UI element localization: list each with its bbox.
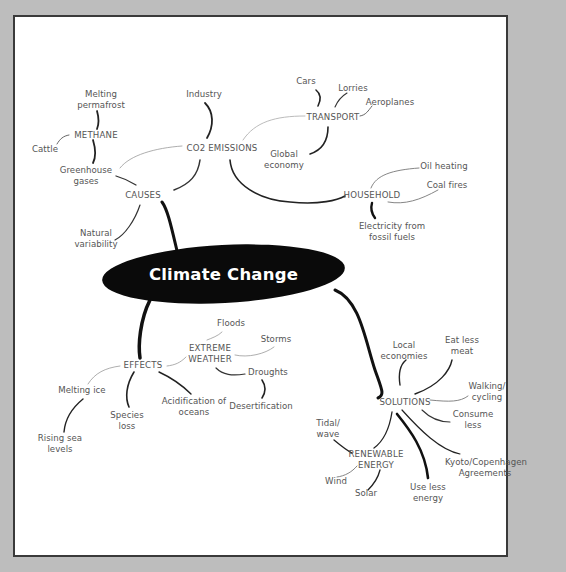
link-solutions-consume — [422, 410, 450, 422]
node-local-economies: Local economies — [379, 340, 429, 361]
link-solutions-renewable — [374, 412, 392, 448]
node-desertification: Desertification — [229, 401, 293, 412]
link-transport-aeroplanes — [360, 106, 372, 116]
node-solar: Solar — [355, 488, 377, 499]
node-cars: Cars — [296, 76, 315, 87]
node-storms: Storms — [261, 334, 292, 345]
node-use-less-energy: Use less energy — [407, 482, 449, 503]
link-meltingice-rising — [64, 399, 83, 432]
node-co2-emissions: CO2 EMISSIONS — [186, 143, 257, 154]
link-causes-greenhouse — [116, 176, 136, 185]
node-acidification-of-oceans: Acidification of oceans — [159, 396, 229, 417]
link-methane-cattle — [57, 135, 69, 144]
link-effects-meltingice — [88, 366, 120, 384]
node-cattle: Cattle — [32, 144, 58, 155]
node-droughts: Droughts — [248, 367, 288, 378]
node-methane: METHANE — [74, 130, 118, 141]
node-kyoto-copenhagen: Kyoto/Copenhagen Agreements — [445, 457, 525, 478]
link-household-oil — [371, 168, 419, 188]
node-transport: TRANSPORT — [307, 112, 360, 123]
node-industry: Industry — [186, 89, 222, 100]
link-effects-species — [127, 372, 134, 407]
node-global-economy: Global economy — [259, 149, 309, 170]
node-consume-less: Consume less — [450, 409, 496, 430]
link-greenhouse-co2 — [120, 146, 182, 168]
node-extreme-weather: EXTREME WEATHER — [185, 343, 235, 364]
link-solutions-walking — [430, 396, 468, 401]
node-aeroplanes: Aeroplanes — [366, 97, 414, 108]
node-solutions: SOLUTIONS — [379, 397, 430, 408]
link-droughts-desertification — [262, 380, 265, 398]
link-co2-industry — [205, 103, 212, 138]
link-transport-lorries — [335, 93, 347, 107]
link-solutions-meat — [415, 360, 452, 394]
node-tidal-wave: Tidal/ wave — [313, 418, 343, 439]
link-center-effects — [139, 300, 150, 358]
node-greenhouse-gases: Greenhouse gases — [56, 165, 116, 186]
link-household-electricity — [371, 203, 375, 218]
node-melting-ice: Melting ice — [58, 385, 105, 396]
node-coal-fires: Coal fires — [427, 180, 468, 191]
node-effects: EFFECTS — [124, 360, 163, 371]
central-node-title: Climate Change — [102, 245, 345, 303]
link-extreme-droughts — [216, 368, 245, 375]
node-rising-sea-levels: Rising sea levels — [35, 433, 85, 454]
link-extreme-storms — [235, 347, 274, 356]
link-effects-extreme — [167, 357, 186, 366]
node-wind: Wind — [325, 476, 347, 487]
node-renewable-energy: RENEWABLE ENERGY — [346, 449, 406, 470]
link-co2-transport — [243, 116, 305, 140]
link-transport-global-economy — [310, 127, 328, 154]
link-effects-acidification — [159, 372, 191, 394]
link-center-solutions — [335, 290, 382, 398]
node-eat-less-meat: Eat less meat — [442, 335, 482, 356]
node-species-loss: Species loss — [107, 410, 147, 431]
node-floods: Floods — [217, 318, 245, 329]
node-household: HOUSEHOLD — [344, 190, 401, 201]
node-causes: CAUSES — [125, 190, 161, 201]
node-natural-variability: Natural variability — [66, 228, 126, 249]
node-lorries: Lorries — [338, 83, 367, 94]
node-oil-heating: Oil heating — [420, 161, 467, 172]
link-extreme-floods — [207, 332, 222, 340]
link-solutions-local — [399, 360, 406, 385]
link-methane-greenhouse — [93, 140, 95, 163]
link-transport-cars — [316, 90, 320, 106]
node-melting-permafrost: Melting permafrost — [71, 89, 131, 110]
link-causes-co2 — [174, 160, 200, 190]
node-electricity-fossil-fuels: Electricity from fossil fuels — [352, 221, 432, 242]
link-methane-permafrost — [97, 111, 99, 129]
node-walking-cycling: Walking/ cycling — [465, 381, 509, 402]
